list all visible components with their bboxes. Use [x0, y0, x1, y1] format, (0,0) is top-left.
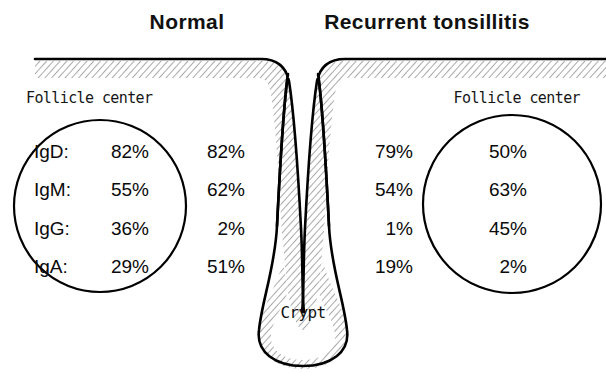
- panel-recurrent-tonsillitis: Follicle center 79% 54% 1% 19% 50% 63% 4…: [375, 89, 601, 293]
- outer-value-tonsillitis-igd: 79%: [375, 141, 413, 162]
- outer-value-normal-iga: 51%: [207, 256, 245, 277]
- follicle-value-normal-igd: 82%: [111, 141, 149, 162]
- outer-value-normal-igg: 2%: [218, 218, 246, 239]
- panel-normal: Follicle center IgD: 82% IgM: 55% IgG: 3…: [14, 89, 245, 292]
- isotype-label-igm: IgM:: [34, 179, 71, 200]
- outer-value-normal-igd: 82%: [207, 141, 245, 162]
- follicle-value-normal-igm: 55%: [111, 179, 149, 200]
- isotype-label-iga: IgA:: [34, 256, 68, 277]
- panel-title-recurrent-tonsillitis: Recurrent tonsillitis: [324, 10, 530, 33]
- outer-value-normal-igm: 62%: [207, 179, 245, 200]
- panel-title-normal: Normal: [150, 10, 225, 33]
- interfollicular-values-tonsillitis: 79% 54% 1% 19%: [375, 141, 413, 277]
- follicle-value-tonsillitis-iga: 2%: [500, 256, 528, 277]
- follicle-center-label-normal: Follicle center: [26, 89, 153, 107]
- follicle-center-values-tonsillitis: 50% 63% 45% 2%: [489, 141, 527, 277]
- crypt-label: Crypt: [280, 303, 325, 322]
- isotype-label-igd: IgD:: [34, 141, 69, 162]
- follicle-value-normal-iga: 29%: [111, 256, 149, 277]
- isotype-label-igg: IgG:: [34, 218, 70, 239]
- follicle-value-tonsillitis-igg: 45%: [489, 218, 527, 239]
- interfollicular-values-normal: 82% 62% 2% 51%: [207, 141, 245, 277]
- tonsil-follicle-diagram: Normal Recurrent tonsillitis Crypt Folli…: [0, 0, 606, 374]
- follicle-value-normal-igg: 36%: [111, 218, 149, 239]
- follicle-value-tonsillitis-igd: 50%: [489, 141, 527, 162]
- follicle-center-values-normal: IgD: 82% IgM: 55% IgG: 36% IgA: 29%: [34, 141, 149, 277]
- outer-value-tonsillitis-iga: 19%: [375, 256, 413, 277]
- outer-value-tonsillitis-igm: 54%: [375, 179, 413, 200]
- outer-value-tonsillitis-igg: 1%: [386, 218, 414, 239]
- follicle-value-tonsillitis-igm: 63%: [489, 179, 527, 200]
- follicle-center-label-tonsillitis: Follicle center: [454, 89, 581, 107]
